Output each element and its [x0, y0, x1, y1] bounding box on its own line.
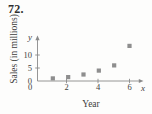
x-axis-title: Year: [46, 99, 136, 109]
y-axis-variable-label: y: [28, 33, 32, 42]
data-point: [81, 72, 85, 76]
x-tick-label-6: 6: [124, 83, 136, 92]
y-tick-label-10: 10: [18, 51, 32, 60]
x-tick-label-4: 4: [92, 83, 104, 92]
data-point: [127, 44, 131, 48]
data-point: [66, 75, 70, 79]
data-point: [97, 69, 101, 73]
scatter-plot: y x 10 5 0 0 2 4 6 Sales (in millions) Y…: [0, 0, 152, 114]
figure-container: 72. y x 10 5: [0, 0, 152, 114]
x-tick-label-0: 0: [28, 83, 32, 92]
y-axis-title: Sales (in millions): [9, 5, 19, 93]
data-point: [51, 76, 55, 80]
y-tick-label-5: 5: [18, 64, 32, 73]
x-axis-variable-label: x: [141, 84, 145, 93]
data-point: [112, 63, 116, 67]
y-axis-arrow-icon: [35, 36, 39, 41]
x-tick-label-2: 2: [61, 83, 73, 92]
